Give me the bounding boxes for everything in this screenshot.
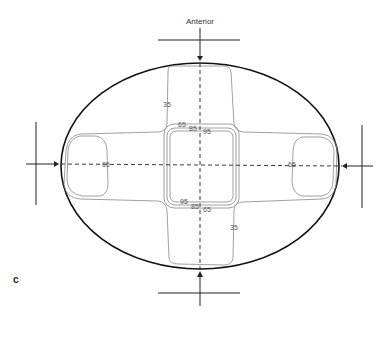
label-95-top: 95 xyxy=(203,128,211,135)
bottom-beam-marker xyxy=(158,271,240,306)
anterior-label: Anterior xyxy=(186,17,214,26)
contour-65-center xyxy=(164,124,239,208)
label-35-bottom: 35 xyxy=(230,224,238,231)
contour-95-center xyxy=(170,131,233,202)
label-65-left: 65 xyxy=(102,161,110,168)
contour-85-center xyxy=(167,128,236,205)
label-65-right: 65 xyxy=(288,161,296,168)
left-beam-marker xyxy=(26,122,59,205)
panel-label: c xyxy=(13,274,19,285)
label-65-bottom: 65 xyxy=(203,206,211,213)
arrow-up-icon xyxy=(197,271,203,277)
label-85-top: 85 xyxy=(189,125,197,132)
arrow-right-icon xyxy=(54,161,59,167)
right-beam-marker xyxy=(342,125,373,208)
diagram-canvas: Anterior 35 65 85 95 95 85 65 xyxy=(0,0,392,337)
arrow-down-icon xyxy=(197,56,203,61)
contour-65-right xyxy=(292,137,334,196)
arrow-left-icon xyxy=(342,163,347,169)
label-85-bottom: 85 xyxy=(191,203,199,210)
label-65-top: 65 xyxy=(178,121,186,128)
label-95-bottom: 95 xyxy=(180,198,188,205)
top-beam-marker xyxy=(158,28,240,61)
label-35-top: 35 xyxy=(163,101,171,108)
